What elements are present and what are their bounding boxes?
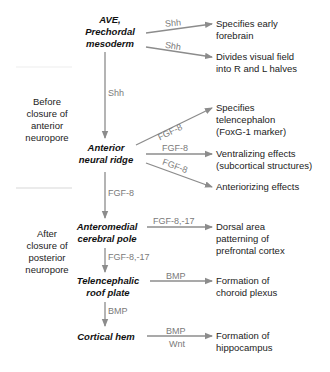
outcome-line: Specifies early [216, 18, 278, 30]
node-line: cerebral pole [66, 233, 148, 245]
outcome-line: forebrain [216, 30, 278, 42]
node-line: Anterior [66, 142, 146, 154]
signal-label: BMP [166, 325, 186, 337]
node-line: neural ridge [66, 154, 146, 166]
outcome-line: hippocampus [216, 342, 273, 354]
node-anteromedial-cerebral-pole: Anteromedial cerebral pole [66, 221, 148, 245]
node-ave-prechordal-mesoderm: AVE, Prechordal mesoderm [72, 14, 148, 50]
outcome-hippocampus: Formation of hippocampus [216, 330, 273, 354]
signal-label: BMP [166, 270, 186, 282]
phase-label-line: Before [12, 96, 82, 108]
node-cortical-hem: Cortical hem [66, 331, 146, 343]
outcome-line: prefrontal cortex [216, 245, 285, 257]
outcome-specifies-telencephalon: Specifies telencephalon (FoxG-1 marker) [216, 102, 286, 138]
outcome-line: Dorsal area [216, 221, 285, 233]
outcome-line: Divides visual field [216, 51, 297, 63]
outcome-line: Formation of [216, 330, 273, 342]
signal-label: BMP [108, 305, 128, 317]
outcome-line: (subcortical structures) [216, 160, 312, 172]
node-line: Telencephalic [66, 275, 150, 287]
outcome-dorsal-area-patterning: Dorsal area patterning of prefrontal cor… [216, 221, 285, 257]
signal-label: FGF-8,-17 [153, 215, 195, 227]
outcome-line: into R and L halves [216, 63, 297, 75]
phase-label-line: posterior [12, 252, 82, 264]
node-anterior-neural-ridge: Anterior neural ridge [66, 142, 146, 166]
outcome-line: telencephalon [216, 114, 286, 126]
node-line: AVE, [72, 14, 148, 26]
outcome-line: Ventralizing effects [216, 148, 312, 160]
phase-label-line: anterior [12, 120, 82, 132]
outcome-line: choroid plexus [216, 287, 277, 299]
outcome-line: patterning of [216, 233, 285, 245]
node-line: Prechordal [72, 26, 148, 38]
outcome-line: Formation of [216, 275, 277, 287]
phase-label-line: closure of [12, 108, 82, 120]
signal-label: Shh [108, 87, 124, 99]
signal-label: Shh [165, 16, 182, 29]
node-line: roof plate [66, 287, 150, 299]
node-line: Anteromedial [66, 221, 148, 233]
outcome-line: (FoxG-1 marker) [216, 126, 286, 138]
signal-label: Shh [164, 39, 182, 53]
outcome-anteriorizing-effects: Anteriorizing effects [216, 181, 299, 193]
outcome-line: Specifies [216, 102, 286, 114]
outcome-ventralizing-effects: Ventralizing effects (subcortical struct… [216, 148, 312, 172]
phase-label-before: Before closure of anterior neuropore [12, 96, 82, 144]
signal-label: FGF-8 [108, 187, 134, 199]
outcome-divides-visual-field: Divides visual field into R and L halves [216, 51, 297, 75]
outcome-choroid-plexus: Formation of choroid plexus [216, 275, 277, 299]
node-telencephalic-roof-plate: Telencephalic roof plate [66, 275, 150, 299]
outcome-specifies-early-forebrain: Specifies early forebrain [216, 18, 278, 42]
signal-label: FGF-8,-17 [108, 251, 150, 263]
node-line: mesoderm [72, 38, 148, 50]
signal-label: Wnt [169, 338, 185, 350]
signal-label: FGF-8 [162, 142, 188, 154]
outcome-line: Anteriorizing effects [216, 181, 299, 193]
node-line: Cortical hem [66, 331, 146, 343]
